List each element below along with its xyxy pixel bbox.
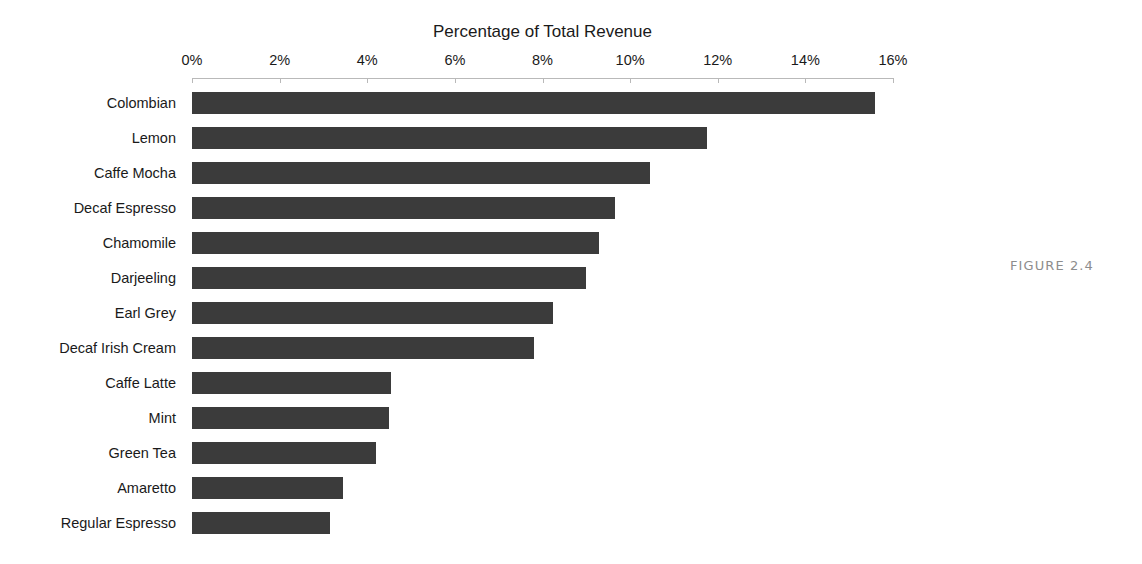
x-axis-tick (543, 78, 544, 83)
x-axis-tick-label: 0% (182, 52, 203, 68)
y-axis-category-label: Green Tea (0, 442, 176, 464)
bar (192, 92, 875, 114)
figure-container: Percentage of Total Revenue 0%2%4%6%8%10… (0, 0, 1142, 564)
y-axis-category-label: Caffe Mocha (0, 162, 176, 184)
bar (192, 232, 599, 254)
y-axis-category-label: Regular Espresso (0, 512, 176, 534)
x-axis-tick (280, 78, 281, 83)
x-axis-tick-label: 6% (444, 52, 465, 68)
x-axis-tick (718, 78, 719, 83)
bar-row: Amaretto (0, 477, 1142, 512)
x-axis-tick (805, 78, 806, 83)
x-axis-tick-label: 14% (791, 52, 820, 68)
bar-row: Darjeeling (0, 267, 1142, 302)
bar-row: Caffe Mocha (0, 162, 1142, 197)
bar (192, 372, 391, 394)
y-axis-category-label: Colombian (0, 92, 176, 114)
y-axis-category-label: Darjeeling (0, 267, 176, 289)
bar-row: Green Tea (0, 442, 1142, 477)
y-axis-category-label: Earl Grey (0, 302, 176, 324)
x-axis-tick (455, 78, 456, 83)
bar (192, 197, 615, 219)
bar-row: Lemon (0, 127, 1142, 162)
bar (192, 337, 534, 359)
y-axis-category-label: Chamomile (0, 232, 176, 254)
bar-row: Caffe Latte (0, 372, 1142, 407)
bar (192, 407, 389, 429)
bar (192, 127, 707, 149)
y-axis-category-label: Caffe Latte (0, 372, 176, 394)
x-axis-tick-label: 8% (532, 52, 553, 68)
x-axis-tick-label: 16% (878, 52, 907, 68)
bar (192, 512, 330, 534)
bar-row: Mint (0, 407, 1142, 442)
y-axis-category-label: Lemon (0, 127, 176, 149)
x-axis-tick (893, 78, 894, 83)
bar-chart-plot-area: 0%2%4%6%8%10%12%14%16% ColombianLemonCaf… (0, 0, 1142, 564)
bar (192, 302, 553, 324)
bar-row: Regular Espresso (0, 512, 1142, 547)
figure-caption: FIGURE 2.4 (1010, 258, 1094, 273)
x-axis-tick (367, 78, 368, 83)
x-axis-tick (192, 78, 193, 83)
bar (192, 442, 376, 464)
bar-row: Chamomile (0, 232, 1142, 267)
bar-row: Decaf Espresso (0, 197, 1142, 232)
x-axis-tick-label: 10% (616, 52, 645, 68)
x-axis-tick-label: 4% (357, 52, 378, 68)
bar-row: Colombian (0, 92, 1142, 127)
x-axis-tick-label: 12% (703, 52, 732, 68)
y-axis-category-label: Decaf Irish Cream (0, 337, 176, 359)
x-axis-tick (630, 78, 631, 83)
y-axis-category-label: Decaf Espresso (0, 197, 176, 219)
x-axis-tick-label: 2% (269, 52, 290, 68)
bar-row: Decaf Irish Cream (0, 337, 1142, 372)
bar (192, 267, 586, 289)
bar (192, 477, 343, 499)
y-axis-category-label: Mint (0, 407, 176, 429)
y-axis-category-label: Amaretto (0, 477, 176, 499)
bar (192, 162, 650, 184)
bar-row: Earl Grey (0, 302, 1142, 337)
